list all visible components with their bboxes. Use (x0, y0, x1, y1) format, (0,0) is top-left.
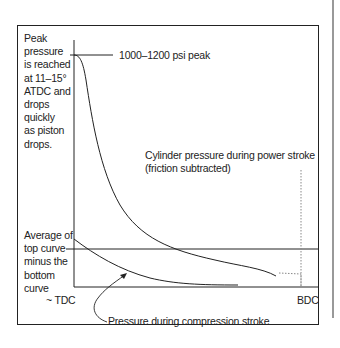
peak-note-line: Peak (24, 32, 71, 45)
average-note-line: Average of (24, 229, 73, 242)
average-note-line: minus the (24, 255, 73, 268)
average-note-line: bottom (24, 269, 73, 282)
peak-note-line: quickly (24, 111, 71, 124)
peak-note-line: drops (24, 98, 71, 111)
tdc-label: ~ TDC (46, 294, 75, 307)
peak-note-line: at 11–15° (24, 72, 71, 85)
bdc-label: BDC (297, 294, 319, 307)
peak-note-line: drops. (24, 138, 71, 151)
average-note-line: top curve (24, 242, 73, 255)
compression-curve-label: Pressure during compression stroke (108, 315, 269, 328)
power-curve-dotted-tail (279, 273, 301, 287)
power-curve-label-line: Cylinder pressure during power stroke (145, 149, 315, 162)
peak-note-line: is reached (24, 58, 71, 71)
compression-stroke-curve (74, 239, 238, 285)
average-note: Average of top curve minus the bottom cu… (24, 229, 73, 295)
peak-note-line: ATDC and (24, 85, 71, 98)
power-curve-label-line: (friction subtracted) (145, 162, 315, 175)
peak-value-label: 1000–1200 psi peak (119, 49, 210, 62)
peak-note: Peak pressure is reached at 11–15° ATDC … (24, 32, 71, 151)
peak-note-line: as piston (24, 124, 71, 137)
peak-note-line: pressure (24, 45, 71, 58)
power-curve-label: Cylinder pressure during power stroke (f… (145, 149, 315, 175)
